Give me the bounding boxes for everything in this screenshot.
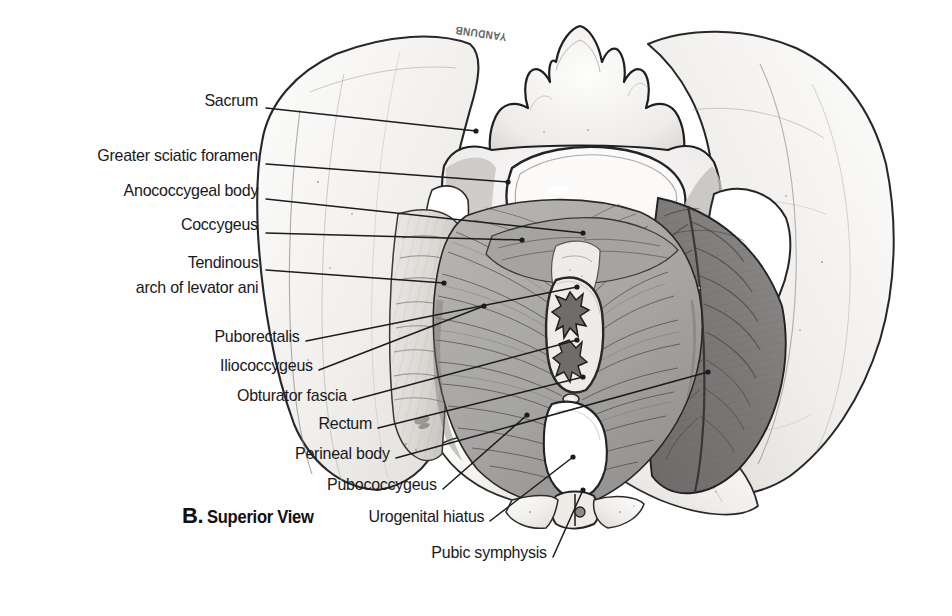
figure-caption-words: Superior View <box>207 507 314 528</box>
label-perineal-body: Perineal body <box>295 443 390 464</box>
label-obturator-fascia: Obturator fascia <box>237 385 347 406</box>
label-iliococcygeus: Iliococcygeus <box>220 355 313 376</box>
label-anococcygeal-body: Anococcygeal body <box>123 180 258 201</box>
label-pubic-symphysis: Pubic symphysis <box>432 542 547 563</box>
label-urogenital-hiatus: Urogenital hiatus <box>368 506 484 527</box>
label-sacrum: Sacrum <box>204 90 258 111</box>
pubic-symphysis-joint <box>506 492 644 529</box>
figure-caption: B. Superior View <box>182 503 323 529</box>
figure-page: Sacrum Greater sciatic foramen Anococcyg… <box>0 0 952 616</box>
urogenital-hiatus-gap <box>544 402 607 498</box>
label-puborectalis: Puborectalis <box>215 326 300 347</box>
label-rectum: Rectum <box>318 413 372 434</box>
label-greater-sciatic-foramen: Greater sciatic foramen <box>97 145 258 166</box>
label-tendinous-arch-of-levator-ani: Tendinous arch of levator ani <box>135 250 258 300</box>
figure-caption-letter: B. <box>182 503 203 528</box>
label-pubococcygeus: Pubococcygeus <box>327 474 437 495</box>
label-coccygeus: Coccygeus <box>181 214 258 235</box>
anorectal-canal <box>546 278 603 393</box>
